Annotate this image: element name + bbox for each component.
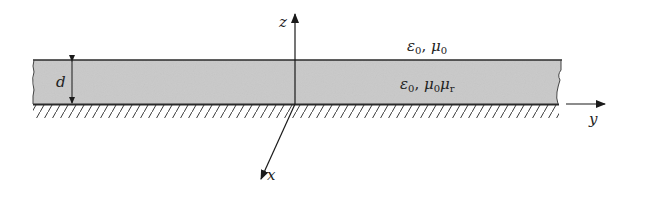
thickness-label: d xyxy=(56,75,66,90)
z-axis-label: z xyxy=(279,15,287,30)
diagram-canvas xyxy=(0,0,649,197)
x-axis-label: x xyxy=(267,168,275,183)
slab-region-label: ε0, μ0μr xyxy=(400,77,455,94)
magnetic-slab xyxy=(33,60,562,105)
ground-plane xyxy=(33,105,559,118)
upper-region-label: ε0, μ0 xyxy=(407,39,447,56)
y-axis-label: y xyxy=(589,112,597,127)
